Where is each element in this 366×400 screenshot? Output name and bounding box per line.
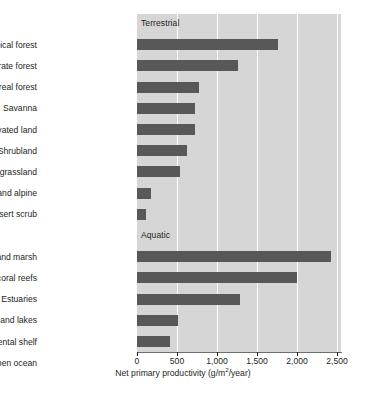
bar [137, 145, 187, 156]
group-label-aquatic: Aquatic [141, 230, 170, 240]
category-label: Savanna [3, 103, 37, 113]
bar [137, 103, 195, 114]
figure-container: TerrestrialAquatic Tropical forestTemper… [0, 0, 366, 400]
bar [137, 272, 297, 283]
category-label: Tundra and alpine [0, 188, 37, 198]
x-tick-label: 1,500 [246, 356, 268, 366]
category-label: Algal beds and coral reefs [0, 273, 37, 283]
category-label: Tropical forest [0, 40, 37, 50]
category-label: Estuaries [1, 294, 37, 304]
category-label: Desert scrub [0, 209, 37, 219]
group-label-terrestrial: Terrestrial [141, 18, 179, 28]
bar [137, 166, 180, 177]
gridline [337, 14, 338, 352]
bar [137, 294, 240, 305]
x-tick-label: 2,500 [326, 356, 348, 366]
gridline [257, 14, 258, 352]
category-label: Swamp and marsh [0, 252, 37, 262]
category-label: Shrubland [0, 146, 37, 156]
bar [137, 60, 238, 71]
x-axis-line [137, 352, 342, 353]
gridline [297, 14, 298, 352]
x-tick-label: 2,000 [286, 356, 308, 366]
bar [137, 39, 278, 50]
category-label: Boreal forest [0, 82, 37, 92]
category-label: Cultivated land [0, 125, 37, 135]
x-tick-label: 500 [170, 356, 184, 366]
x-tick-label: 1,000 [206, 356, 228, 366]
plot-area: TerrestrialAquatic [137, 14, 341, 352]
x-axis-title-text: Net primary productivity (g/m2/year) [115, 368, 250, 378]
category-label: Temperate forest [0, 61, 37, 71]
bar [137, 315, 178, 326]
category-label: Temperate grassland [0, 167, 37, 177]
bar [137, 124, 195, 135]
category-label: Rivers and lakes [0, 315, 37, 325]
x-tick-label: 0 [135, 356, 140, 366]
bar [137, 209, 146, 220]
bar [137, 82, 199, 93]
bar [137, 336, 170, 347]
x-axis-title: Net primary productivity (g/m2/year) [0, 366, 366, 378]
bar [137, 251, 331, 262]
category-label: Continental shelf [0, 337, 37, 347]
bar [137, 188, 151, 199]
